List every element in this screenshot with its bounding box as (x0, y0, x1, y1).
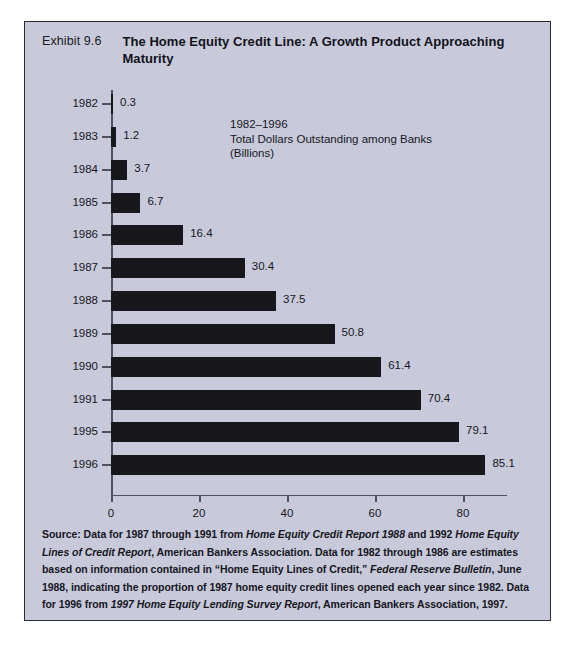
bar-value-label: 85.1 (492, 457, 514, 469)
exhibit-panel: Exhibit 9.6 The Home Equity Credit Line:… (24, 21, 551, 621)
x-axis-tick-label: 40 (281, 507, 294, 519)
y-axis-tick-label: 1995 (72, 425, 98, 437)
y-axis-tick (102, 103, 111, 105)
bar-row: 198950.8 (111, 324, 507, 344)
bar (111, 193, 140, 213)
x-axis-line (111, 495, 507, 497)
annotation-line-1: 1982–1996 (230, 117, 432, 132)
bar-row: 198616.4 (111, 225, 507, 245)
chart-annotation: 1982–1996 Total Dollars Outstanding amon… (230, 117, 432, 161)
bar (111, 390, 421, 410)
bar (111, 127, 116, 147)
bar-row: 199685.1 (111, 455, 507, 475)
x-axis-tick-label: 80 (457, 507, 470, 519)
x-axis-tick-label: 0 (108, 507, 114, 519)
x-axis-tick (463, 496, 465, 502)
x-axis-tick (111, 496, 113, 502)
y-axis-tick-label: 1986 (72, 228, 98, 240)
source-note-title: 1997 Home Equity Lending Survey Report (111, 598, 318, 610)
y-axis-tick-label: 1991 (72, 393, 98, 405)
bar (111, 225, 183, 245)
bar (111, 455, 485, 475)
source-note: Source: Data for 1987 through 1991 from … (42, 526, 538, 614)
source-note-title: Federal Reserve Bulletin (370, 563, 491, 575)
x-axis-tick (287, 496, 289, 502)
bar-value-label: 30.4 (252, 260, 274, 272)
source-note-text: Source: Data for 1987 through 1991 from (42, 528, 246, 540)
source-note-title: Home Equity Credit Report 1988 (246, 528, 405, 540)
bar-value-label: 0.3 (120, 96, 136, 108)
bar-row: 199579.1 (111, 422, 507, 442)
annotation-line-3: (Billions) (230, 146, 432, 161)
y-axis-tick (102, 464, 111, 466)
bar-value-label: 16.4 (190, 227, 212, 239)
bar-row: 19820.3 (111, 94, 507, 114)
y-axis-tick (102, 431, 111, 433)
bar-value-label: 79.1 (466, 424, 488, 436)
bar-value-label: 6.7 (147, 195, 163, 207)
y-axis-tick-label: 1996 (72, 458, 98, 470)
bar-value-label: 61.4 (388, 359, 410, 371)
annotation-line-2: Total Dollars Outstanding among Banks (230, 132, 432, 147)
y-axis-tick-label: 1987 (72, 261, 98, 273)
y-axis-tick (102, 234, 111, 236)
y-axis-tick-label: 1982 (72, 97, 98, 109)
y-axis-tick (102, 300, 111, 302)
bar-value-label: 37.5 (283, 293, 305, 305)
x-axis-tick-label: 20 (193, 507, 206, 519)
y-axis-tick-label: 1984 (72, 163, 98, 175)
bar-value-label: 50.8 (342, 326, 364, 338)
bar (111, 357, 381, 377)
bar (111, 258, 245, 278)
source-note-text: and 1992 (405, 528, 455, 540)
bar (111, 324, 335, 344)
bar-row: 199170.4 (111, 390, 507, 410)
y-axis-tick-label: 1985 (72, 196, 98, 208)
bar-value-label: 1.2 (123, 129, 139, 141)
y-axis-tick-label: 1988 (72, 294, 98, 306)
y-axis-tick-label: 1983 (72, 130, 98, 142)
bar-row: 198837.5 (111, 291, 507, 311)
bar-row: 19856.7 (111, 193, 507, 213)
y-axis-tick (102, 333, 111, 335)
x-axis-tick (375, 496, 377, 502)
y-axis-tick (102, 267, 111, 269)
bar-value-label: 3.7 (134, 162, 150, 174)
x-axis-tick (199, 496, 201, 502)
bar-row: 199061.4 (111, 357, 507, 377)
y-axis-tick (102, 202, 111, 204)
y-axis-tick-label: 1989 (72, 327, 98, 339)
bar-row: 19843.7 (111, 160, 507, 180)
source-note-text: , American Bankers Association, 1997. (318, 598, 508, 610)
bar-row: 198730.4 (111, 258, 507, 278)
y-axis-tick (102, 169, 111, 171)
bar (111, 291, 276, 311)
bar (111, 422, 459, 442)
bar-value-label: 70.4 (428, 392, 450, 404)
y-axis-tick-label: 1990 (72, 360, 98, 372)
bar (111, 94, 113, 114)
y-axis-tick (102, 136, 111, 138)
bar (111, 160, 127, 180)
y-axis-tick (102, 366, 111, 368)
x-axis-tick-label: 60 (369, 507, 382, 519)
y-axis-tick (102, 399, 111, 401)
